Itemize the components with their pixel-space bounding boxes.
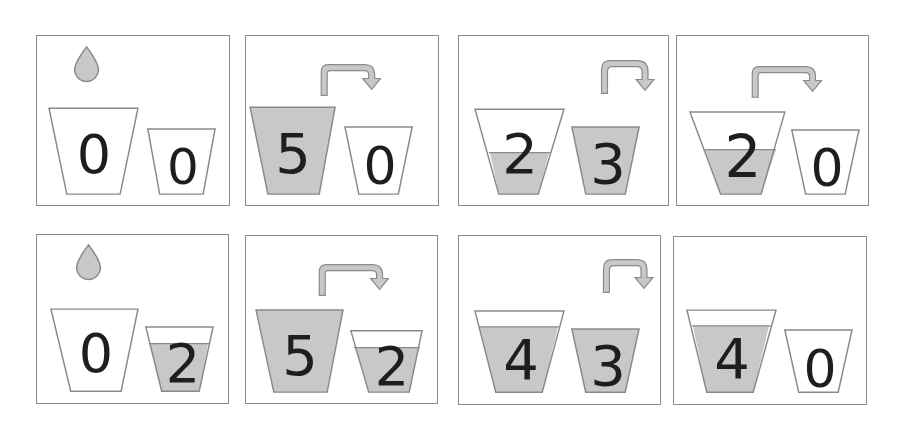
step-panel-4: 2 0: [676, 35, 869, 206]
big-cup-value: 5: [272, 328, 328, 384]
pour-arrow-icon: [752, 67, 821, 98]
small-cup-value: 2: [364, 340, 420, 394]
small-cup-value: 0: [157, 142, 209, 192]
small-cup-value: 0: [801, 142, 853, 194]
step-panel-2: 5 0: [245, 35, 439, 206]
big-cup-value: 2: [493, 126, 547, 182]
small-cup-value: 2: [155, 337, 211, 391]
big-cup-value: 2: [715, 128, 771, 186]
big-cup-value: 0: [69, 327, 123, 381]
big-cup-value: 0: [67, 128, 121, 182]
drop-icon: [77, 245, 101, 280]
step-panel-8: 4 0: [673, 236, 867, 405]
big-cup-value: 5: [266, 126, 320, 182]
small-cup-value: 0: [794, 343, 846, 395]
pour-arrow-icon: [603, 260, 652, 293]
pour-arrow-icon: [319, 265, 388, 296]
pour-arrow-icon: [602, 61, 654, 94]
step-panel-6: 5 2: [245, 235, 438, 404]
small-cup-value: 3: [581, 136, 635, 192]
big-cup-value: 4: [704, 331, 760, 387]
small-cup-value: 3: [581, 338, 635, 394]
step-panel-5: 0 2: [36, 234, 229, 404]
big-cup-value: 4: [493, 332, 549, 388]
step-panel-7: 4 3: [458, 235, 661, 405]
step-panel-3: 2 3: [458, 35, 669, 206]
pour-arrow-icon: [321, 65, 380, 96]
drop-icon: [75, 47, 99, 82]
step-panel-1: 0 0: [36, 35, 230, 206]
panel-graphics: [459, 36, 668, 205]
small-cup-value: 0: [354, 140, 406, 192]
